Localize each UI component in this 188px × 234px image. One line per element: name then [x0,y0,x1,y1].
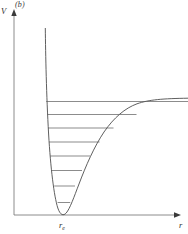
re-subscript: e [62,225,65,231]
y-axis-label: V [1,6,6,16]
plot-canvas [0,0,188,234]
y-axis-arrow-icon [11,9,16,16]
potential-energy-diagram: (b) V r re [0,0,188,234]
x-axis-arrow-icon [174,212,181,217]
morse-potential-curve [45,28,188,215]
panel-label: (b) [15,0,25,10]
x-axis-label: r [179,220,182,230]
equilibrium-distance-label: re [59,220,65,231]
